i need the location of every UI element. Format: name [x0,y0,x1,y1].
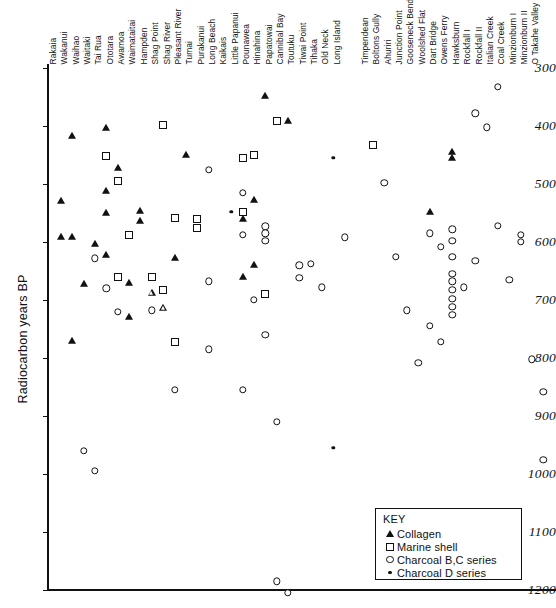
collagen-point [136,206,144,213]
collagen-point [125,278,133,285]
charcoal-bc-point [171,386,178,393]
charcoal-bc-point [437,338,444,345]
collagen-point [136,217,144,224]
charcoal-bc-point [426,230,433,237]
legend-title: KEY [383,513,521,525]
site-label: Waitaki [83,36,91,64]
marine-shell-point [273,117,281,125]
y-axis-tick-mark [43,184,48,185]
legend-key-box: KEY CollagenMarine shellCharcoal B,C ser… [375,508,522,580]
site-label: Coal Creek [497,21,505,64]
charcoal-bc-point [262,237,269,244]
filled-triangle-icon [383,527,397,540]
charcoal-bc-point [91,255,98,262]
y-axis-tick-label: 400 [512,118,556,134]
y-axis-tick-mark [43,68,48,69]
legend-entry: Charcoal D series [383,566,521,579]
site-label: Rakaia [49,37,57,64]
site-label: Shag Point [151,22,159,64]
marine-shell-point [369,141,377,149]
legend-entry-label: Marine shell [397,541,458,553]
x-axis-line [47,589,556,591]
charcoal-bc-point [296,261,303,268]
y-axis-tick-mark [43,300,48,301]
site-label: Shag River [162,22,170,64]
marine-shell-point [159,286,167,294]
marine-shell-point [171,338,179,346]
charcoal-bc-point [471,110,478,117]
marine-shell-point [239,154,247,162]
collagen-point [102,251,110,258]
site-label: Long Beach [207,18,215,64]
site-label: Awamoa [117,31,125,64]
legend-entry: Marine shell [383,540,521,553]
y-axis-title: Radiocarbon years BP [16,274,30,403]
site-label: Toutuku [287,34,295,64]
site-label: Hawksburn [451,21,459,64]
marine-shell-point [159,121,167,129]
y-axis-tick-mark [43,416,48,417]
charcoal-bc-point [103,285,110,292]
collagen-point [68,132,76,139]
marine-shell-point [148,273,156,281]
charcoal-bc-point [403,307,410,314]
site-label: Italian Creek [485,16,493,64]
collagen-point [250,261,258,268]
site-label: Gooseneck Bend [406,0,414,64]
legend-entry: Collagen [383,527,521,540]
charcoal-bc-point [540,456,547,463]
site-label: Purakanui [196,25,204,64]
charcoal-bc-point [426,322,433,329]
y-axis-tick-label: 1000 [512,466,556,482]
y-axis-tick-mark [43,242,48,243]
site-label-column: O Takahe Valley [539,2,550,64]
site-label: Kaikais [219,36,227,64]
collagen-point [171,254,179,261]
charcoal-bc-point [449,237,456,244]
marine-shell-point [114,273,122,281]
marine-shell-point [114,177,122,185]
site-label: Pleasant River [173,8,181,64]
y-axis-tick-mark [43,126,48,127]
charcoal-bc-point [239,231,246,238]
site-label: Boltons Gully [372,13,380,64]
charcoal-bc-point [415,359,422,366]
site-label: Waihao [71,35,79,64]
y-axis-tick-mark [43,590,48,591]
site-label: Waimataitai [128,19,136,64]
charcoal-bc-point [505,276,512,283]
y-axis-tick-label: 900 [512,408,556,424]
open-triangle-point [148,289,156,296]
collagen-point [91,240,99,247]
charcoal-bc-point [341,234,348,241]
charcoal-bc-point [114,308,121,315]
charcoal-bc-point [205,278,212,285]
collagen-point [284,117,292,124]
marine-shell-point [193,224,201,232]
charcoal-bc-point [296,274,303,281]
charcoal-bc-point [250,296,257,303]
collagen-point [448,154,456,161]
open-triangle-point [159,303,167,310]
site-label: Minzionburn II [519,10,527,64]
charcoal-bc-point [449,253,456,260]
charcoal-bc-point [449,303,456,310]
collagen-point [68,233,76,240]
marine-shell-point [102,152,110,160]
charcoal-bc-point [80,447,87,454]
y-axis-tick-mark [43,474,48,475]
site-label-column: Long Island [341,2,352,64]
charcoal-bc-point [392,253,399,260]
collagen-point [57,233,65,240]
site-label: Long Island [332,20,340,64]
filled-circle-icon [383,566,397,579]
site-label: Dart Bridge [429,21,437,64]
y-axis-tick-label: 500 [512,176,556,192]
legend-entry-label: Collagen [397,528,441,540]
y-axis-tick-label: 1200 [512,582,556,598]
collagen-point [102,209,110,216]
charcoal-bc-point [381,179,388,186]
site-label: Rockfall II [474,26,482,64]
site-label: Cannibal Bay [276,13,284,64]
marine-shell-point [171,214,179,222]
